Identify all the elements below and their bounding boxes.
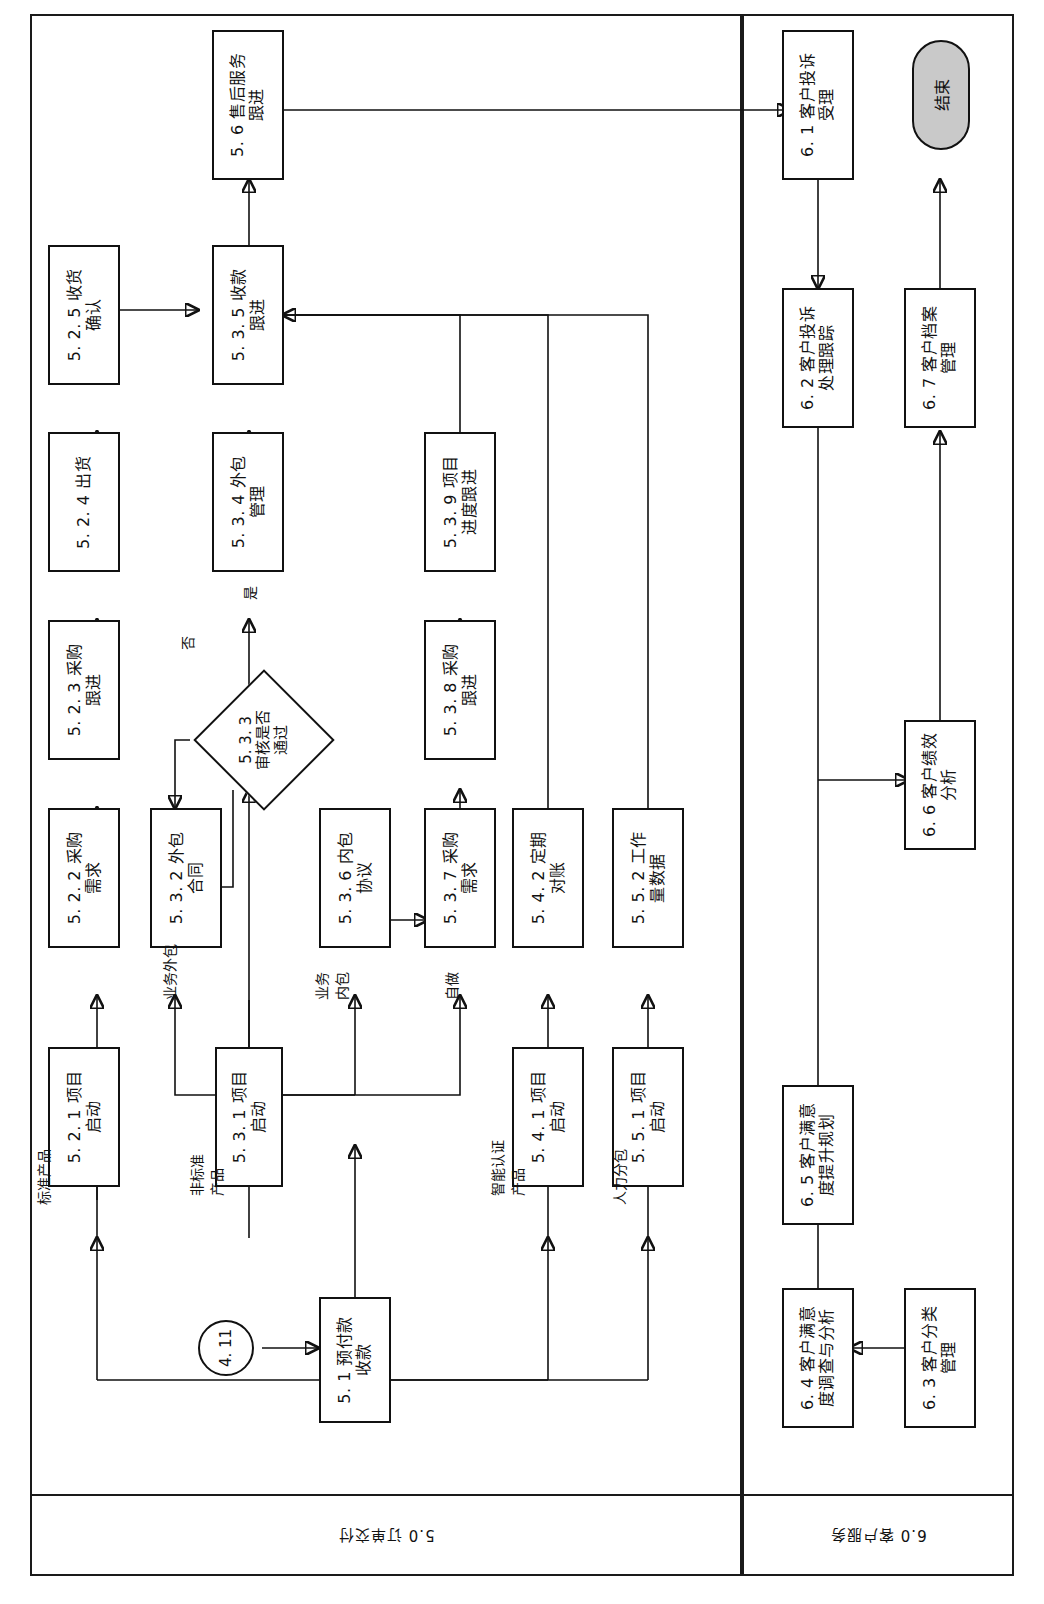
node-6-5-text: 6. 5 客户满意度提升规划 (799, 1103, 837, 1207)
node-5-3-7[interactable]: 5. 3. 7 采购需求 (424, 808, 496, 948)
node-5-2-5[interactable]: 5. 2. 5 收货确认 (48, 245, 120, 385)
node-5-2-2[interactable]: 5. 2. 2 采购需求 (48, 808, 120, 948)
node-5-2-4-text: 5. 2. 4 出货 (75, 456, 94, 549)
node-5-2-1-text: 5. 2. 1 项目启动 (65, 1071, 103, 1164)
node-5-3-1[interactable]: 5. 3. 1 项目启动 (215, 1047, 283, 1187)
node-6-3[interactable]: 6. 3 客户分类管理 (904, 1288, 976, 1428)
node-6-6-text: 6. 6 客户绩效分析 (921, 733, 959, 837)
swimlane-6-title: 6.0 客户服务 (742, 1494, 1014, 1576)
node-5-3-6[interactable]: 5. 3. 6 内包协议 (319, 808, 391, 948)
node-5-1-text: 5. 1 预付款收款 (336, 1316, 374, 1404)
node-end-text: 结束 (929, 79, 953, 111)
node-6-5[interactable]: 6. 5 客户满意度提升规划 (782, 1085, 854, 1225)
node-5-2-3[interactable]: 5. 2. 3 采购跟进 (48, 620, 120, 760)
node-5-3-7-text: 5. 3. 7 采购需求 (441, 832, 479, 925)
node-5-2-3-text: 5. 2. 3 采购跟进 (65, 644, 103, 737)
node-5-5-2-text: 5. 5. 2 工作量数据 (629, 832, 667, 925)
node-5-3-6-text: 5. 3. 6 内包协议 (336, 832, 374, 925)
node-5-3-2[interactable]: 5. 3. 2 外包合同 (150, 808, 222, 948)
node-5-2-1[interactable]: 5. 2. 1 项目启动 (48, 1047, 120, 1187)
node-6-4[interactable]: 6. 4 客户满意度调查与分析 (782, 1288, 854, 1428)
node-6-6[interactable]: 6. 6 客户绩效分析 (904, 720, 976, 850)
swimlane-5-title: 5.0 订单交付 (30, 1494, 742, 1576)
node-5-3-3-text: 5. 3. 3 审核是否 通过 (214, 690, 314, 790)
node-6-3-text: 6. 3 客户分类管理 (921, 1306, 959, 1410)
node-5-4-2-text: 5. 4. 2 定期对账 (529, 832, 567, 925)
node-5-3-5[interactable]: 5. 3. 5 收款跟进 (212, 245, 284, 385)
connector-4-11-text: 4. 11 (217, 1329, 235, 1367)
node-6-2[interactable]: 6. 2 客户投诉处理跟踪 (782, 288, 854, 428)
node-5-5-1-text: 5. 5. 1 项目启动 (629, 1071, 667, 1164)
node-5-3-4[interactable]: 5. 3. 4 外包管理 (212, 432, 284, 572)
node-6-4-text: 6. 4 客户满意度调查与分析 (799, 1306, 837, 1410)
node-5-3-5-text: 5. 3. 5 收款跟进 (229, 269, 267, 362)
node-5-3-1-text: 5. 3. 1 项目启动 (230, 1071, 268, 1164)
node-5-5-2[interactable]: 5. 5. 2 工作量数据 (612, 808, 684, 948)
node-6-7[interactable]: 6. 7 客户档案管理 (904, 288, 976, 428)
node-5-3-8[interactable]: 5. 3. 8 采购跟进 (424, 620, 496, 760)
node-5-3-8-text: 5. 3. 8 采购跟进 (441, 644, 479, 737)
node-5-4-1-text: 5. 4. 1 项目启动 (529, 1071, 567, 1164)
node-end-terminator[interactable]: 结束 (912, 40, 970, 150)
node-5-3-2-text: 5. 3. 2 外包合同 (167, 832, 205, 925)
swimlane-6-label: 6.0 客户服务 (830, 1526, 927, 1547)
flowchart-canvas: 5.0 订单交付 6.0 客户服务 (0, 0, 1044, 1604)
node-5-3-9[interactable]: 5. 3. 9 项目进度跟进 (424, 432, 496, 572)
node-5-1[interactable]: 5. 1 预付款收款 (319, 1297, 391, 1423)
node-5-2-4[interactable]: 5. 2. 4 出货 (48, 432, 120, 572)
node-6-7-text: 6. 7 客户档案管理 (921, 306, 959, 410)
node-6-1[interactable]: 6. 1 客户投诉受理 (782, 30, 854, 180)
node-5-3-9-text: 5. 3. 9 项目进度跟进 (441, 456, 479, 549)
node-6-1-text: 6. 1 客户投诉受理 (799, 53, 837, 157)
node-6-2-text: 6. 2 客户投诉处理跟踪 (799, 306, 837, 410)
node-5-3-3-decision[interactable]: 5. 3. 3 审核是否 通过 (214, 690, 314, 790)
node-5-6-text: 5. 6 售后服务跟进 (229, 53, 267, 157)
swimlane-5-label: 5.0 订单交付 (338, 1526, 435, 1547)
node-5-6[interactable]: 5. 6 售后服务跟进 (212, 30, 284, 180)
node-5-4-2[interactable]: 5. 4. 2 定期对账 (512, 808, 584, 948)
node-5-2-2-text: 5. 2. 2 采购需求 (65, 832, 103, 925)
node-5-4-1[interactable]: 5. 4. 1 项目启动 (512, 1047, 584, 1187)
node-5-3-4-text: 5. 3. 4 外包管理 (229, 456, 267, 549)
connector-4-11[interactable]: 4. 11 (198, 1320, 254, 1376)
node-5-2-5-text: 5. 2. 5 收货确认 (65, 269, 103, 362)
